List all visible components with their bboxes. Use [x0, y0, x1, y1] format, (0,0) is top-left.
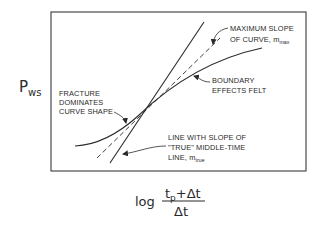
y-axis-label: Pws	[19, 78, 41, 98]
max-slope-leader-arrow	[213, 28, 228, 44]
annotation-true-line: LINE WITH SLOPE OF "TRUE" MIDDLE-TIME LI…	[168, 133, 247, 163]
svg-text:BOUNDARY: BOUNDARY	[212, 76, 255, 85]
true-line-leader-arrow	[123, 146, 166, 154]
annotation-max-slope: MAXIMUM SLOPE OF CURVE, mmax	[230, 24, 294, 45]
svg-text:OF CURVE, mmax: OF CURVE, mmax	[230, 35, 290, 45]
svg-text:tp+Δt: tp+Δt	[165, 186, 201, 203]
boundary-leader-arrow	[194, 76, 210, 82]
svg-text:CURVE SHAPE: CURVE SHAPE	[59, 107, 113, 116]
svg-text:"TRUE" MIDDLE-TIME: "TRUE" MIDDLE-TIME	[168, 143, 245, 152]
svg-text:Δt: Δt	[174, 204, 188, 219]
svg-text:EFFECTS FELT: EFFECTS FELT	[212, 86, 267, 95]
svg-text:LINE, mtrue: LINE, mtrue	[168, 153, 205, 163]
annotation-fracture: FRACTURE DOMINATES CURVE SHAPE	[59, 89, 113, 116]
svg-text:FRACTURE: FRACTURE	[59, 89, 100, 98]
svg-text:Pws: Pws	[19, 78, 41, 98]
fracture-leader-arrow	[114, 112, 126, 123]
diagram-canvas: MAXIMUM SLOPE OF CURVE, mmax BOUNDARY EF…	[0, 0, 316, 230]
svg-text:MAXIMUM SLOPE: MAXIMUM SLOPE	[230, 24, 294, 33]
svg-text:DOMINATES: DOMINATES	[59, 98, 103, 107]
x-axis-label: log tp+Δt Δt	[135, 186, 205, 219]
svg-text:LINE WITH SLOPE OF: LINE WITH SLOPE OF	[168, 133, 247, 142]
pressure-curve	[75, 48, 262, 146]
svg-text:log: log	[135, 194, 155, 209]
annotation-boundary-effects: BOUNDARY EFFECTS FELT	[212, 76, 267, 95]
